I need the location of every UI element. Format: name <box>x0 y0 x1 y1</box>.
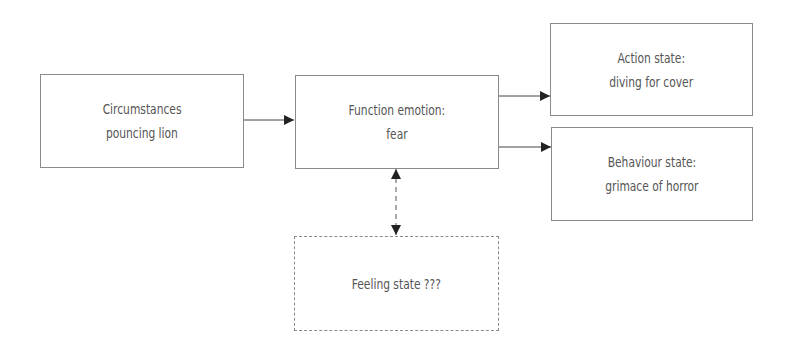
function-emotion-title: Function emotion: <box>349 98 445 122</box>
behaviour-state-detail: grimace of horror <box>605 174 698 198</box>
action-state-box: Action state: diving for cover <box>550 23 753 116</box>
action-state-detail: diving for cover <box>610 70 694 94</box>
action-state-title: Action state: <box>618 46 686 70</box>
circumstances-detail: pouncing lion <box>106 121 178 145</box>
circumstances-box: Circumstances pouncing lion <box>40 74 244 168</box>
function-emotion-box: Function emotion: fear <box>295 75 499 169</box>
feeling-state-title: Feeling state ??? <box>352 272 441 296</box>
behaviour-state-title: Behaviour state: <box>608 150 696 174</box>
feeling-state-box: Feeling state ??? <box>294 236 499 331</box>
function-emotion-detail: fear <box>386 122 407 146</box>
behaviour-state-box: Behaviour state: grimace of horror <box>551 127 753 221</box>
circumstances-title: Circumstances <box>103 97 182 121</box>
